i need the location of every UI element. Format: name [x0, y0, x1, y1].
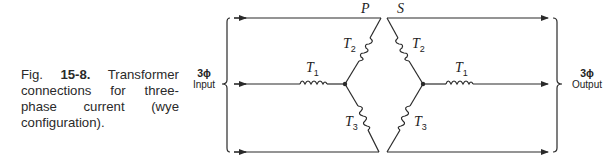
primary-t2-label: T2: [343, 36, 356, 54]
primary-t2-coil: [359, 38, 372, 61]
secondary-t3-coil: [398, 106, 410, 130]
secondary-t1-label: T1: [455, 60, 468, 78]
primary-label: P: [360, 1, 370, 16]
secondary-t3-label: T3: [414, 114, 427, 132]
primary-t1-label: T1: [306, 60, 319, 78]
wye-transformer-diagram: P S T1 T2 T3 T2 T1 T3: [0, 0, 616, 161]
secondary-t2-coil: [396, 38, 409, 61]
output-brace: [553, 18, 562, 152]
secondary-label: S: [397, 1, 404, 16]
primary-t1-coil: [300, 81, 327, 84]
primary-t3-coil: [358, 106, 370, 130]
secondary-neutral-junction: [421, 82, 425, 86]
secondary-t1-coil: [446, 81, 473, 84]
primary-neutral-junction: [343, 82, 347, 86]
input-brace: [222, 18, 230, 152]
primary-t3-label: T3: [345, 114, 358, 132]
secondary-t2-label: T2: [412, 36, 425, 54]
